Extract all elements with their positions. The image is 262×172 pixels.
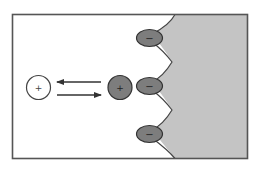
minus-sign: − [145, 33, 153, 44]
surface-charge-2: − [137, 78, 163, 95]
adsorbed-cation: + [108, 76, 132, 100]
free-cation: + [27, 76, 51, 100]
exchange-diagram: − − − + + [0, 0, 262, 172]
surface-charge-1: − [137, 30, 163, 47]
surface-charge-3: − [137, 126, 163, 143]
plus-sign: + [116, 83, 124, 93]
charged-surface [152, 15, 248, 159]
minus-sign: − [145, 129, 153, 140]
plus-sign: + [35, 83, 43, 93]
diagram-canvas: − − − + + [0, 0, 262, 172]
minus-sign: − [145, 81, 153, 92]
